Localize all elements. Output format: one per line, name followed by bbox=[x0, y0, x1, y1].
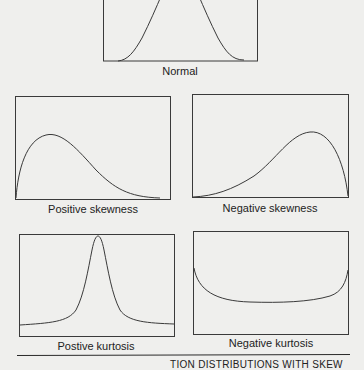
label-negative-skewness: Negative skewness bbox=[223, 202, 318, 214]
label-negative-kurtosis: Negative kurtosis bbox=[229, 337, 313, 349]
positive-kurtosis-curve bbox=[20, 236, 174, 325]
negative-kurtosis-frame bbox=[194, 232, 349, 335]
negative-kurtosis-curve bbox=[194, 268, 348, 302]
negative-skewness-frame bbox=[193, 95, 349, 198]
positive-skewness-frame bbox=[16, 97, 171, 200]
panel-normal bbox=[104, 0, 258, 61]
label-positive-skewness: Positive skewness bbox=[48, 203, 138, 215]
normal-frame bbox=[104, 0, 258, 61]
positive-skewness-curve bbox=[16, 134, 160, 198]
label-positive-kurtosis: Postive kurtosis bbox=[57, 340, 134, 352]
negative-skewness-curve bbox=[193, 132, 348, 197]
panel-positive-skewness bbox=[16, 97, 171, 200]
panel-positive-kurtosis bbox=[20, 235, 175, 337]
figure-caption: TION DISTRIBUTIONS WITH SKEW bbox=[170, 359, 343, 370]
positive-kurtosis-frame bbox=[20, 235, 175, 337]
normal-curve bbox=[118, 0, 244, 61]
panel-negative-skewness bbox=[193, 95, 349, 198]
label-normal: Normal bbox=[162, 65, 197, 77]
caption-rule bbox=[17, 355, 350, 356]
panel-negative-kurtosis bbox=[194, 232, 349, 335]
